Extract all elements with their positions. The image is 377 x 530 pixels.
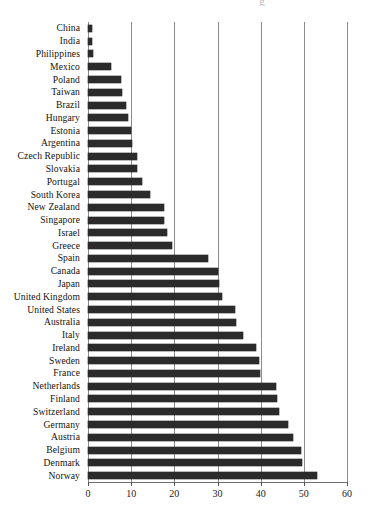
x-tick-mark bbox=[304, 482, 305, 486]
y-axis-label: Spain bbox=[0, 253, 80, 263]
y-axis-label: United Kingdom bbox=[0, 292, 80, 302]
x-axis: 0102030405060 bbox=[88, 482, 347, 512]
bar bbox=[88, 434, 293, 441]
bar bbox=[88, 447, 301, 454]
bar bbox=[88, 383, 276, 390]
y-axis-label: Australia bbox=[0, 317, 80, 327]
y-axis-label: South Korea bbox=[0, 190, 80, 200]
y-axis-label: Portugal bbox=[0, 177, 80, 187]
y-axis-label: Poland bbox=[0, 75, 80, 85]
x-tick-mark bbox=[347, 482, 348, 486]
bar bbox=[88, 421, 288, 428]
bar bbox=[88, 370, 260, 377]
y-axis-label: Austria bbox=[0, 432, 80, 442]
y-axis-label: India bbox=[0, 36, 80, 46]
bar bbox=[88, 268, 218, 275]
y-axis-label: New Zealand bbox=[0, 202, 80, 212]
y-axis-label: Finland bbox=[0, 394, 80, 404]
x-tick-mark bbox=[131, 482, 132, 486]
y-axis-label: Czech Republic bbox=[0, 151, 80, 161]
bar bbox=[88, 408, 279, 415]
bar bbox=[88, 472, 317, 479]
y-axis-label: Ireland bbox=[0, 343, 80, 353]
y-axis-label: Argentina bbox=[0, 138, 80, 148]
y-axis-label: Greece bbox=[0, 241, 80, 251]
bar bbox=[88, 153, 137, 160]
y-axis-label: Singapore bbox=[0, 215, 80, 225]
y-axis-label: Denmark bbox=[0, 458, 80, 468]
bar bbox=[88, 280, 219, 287]
x-tick-mark bbox=[174, 482, 175, 486]
y-axis-label: Hungary bbox=[0, 113, 80, 123]
y-axis-label: Belgium bbox=[0, 445, 80, 455]
bar bbox=[88, 89, 122, 96]
y-axis-label: Canada bbox=[0, 266, 80, 276]
bar-chart: g ChinaIndiaPhilippinesMexicoPolandTaiwa… bbox=[0, 0, 377, 530]
y-axis-label: Slovakia bbox=[0, 164, 80, 174]
y-axis-label: Switzerland bbox=[0, 407, 80, 417]
bar bbox=[88, 102, 126, 109]
y-axis-label: Sweden bbox=[0, 356, 80, 366]
x-tick-label: 30 bbox=[203, 488, 233, 500]
y-axis-label: Germany bbox=[0, 420, 80, 430]
bar bbox=[88, 127, 131, 134]
x-tick-label: 50 bbox=[289, 488, 319, 500]
bar bbox=[88, 76, 121, 83]
bar bbox=[88, 204, 164, 211]
y-axis-label: France bbox=[0, 368, 80, 378]
y-axis-label: Taiwan bbox=[0, 87, 80, 97]
plot-area bbox=[88, 22, 347, 482]
bar bbox=[88, 114, 128, 121]
bar bbox=[88, 178, 142, 185]
bar bbox=[88, 63, 111, 70]
y-axis-label: Italy bbox=[0, 330, 80, 340]
y-axis-label: Brazil bbox=[0, 100, 80, 110]
gridline-60 bbox=[347, 22, 348, 482]
bar bbox=[88, 306, 235, 313]
bar bbox=[88, 293, 222, 300]
bar bbox=[88, 25, 92, 32]
y-axis-label: Norway bbox=[0, 471, 80, 481]
bar bbox=[88, 50, 93, 57]
bar bbox=[88, 344, 256, 351]
y-axis-label: Mexico bbox=[0, 62, 80, 72]
bar bbox=[88, 242, 172, 249]
x-tick-label: 60 bbox=[332, 488, 362, 500]
x-tick-mark bbox=[261, 482, 262, 486]
x-tick-label: 10 bbox=[116, 488, 146, 500]
x-tick-label: 40 bbox=[246, 488, 276, 500]
bar bbox=[88, 459, 302, 466]
x-tick-mark bbox=[218, 482, 219, 486]
y-axis-category-labels: ChinaIndiaPhilippinesMexicoPolandTaiwanB… bbox=[0, 22, 84, 482]
x-tick-mark bbox=[88, 482, 89, 486]
bar bbox=[88, 217, 164, 224]
y-axis-label: Philippines bbox=[0, 49, 80, 59]
bar bbox=[88, 255, 208, 262]
x-tick-label: 0 bbox=[73, 488, 103, 500]
y-axis-label: Estonia bbox=[0, 126, 80, 136]
bar bbox=[88, 165, 137, 172]
bar bbox=[88, 395, 277, 402]
y-axis-label: China bbox=[0, 23, 80, 33]
bar bbox=[88, 140, 132, 147]
bar bbox=[88, 229, 167, 236]
gridline-50 bbox=[304, 22, 305, 482]
x-tick-label: 20 bbox=[159, 488, 189, 500]
bar bbox=[88, 319, 236, 326]
bar bbox=[88, 38, 92, 45]
bar bbox=[88, 357, 259, 364]
title-remnant-text: g bbox=[252, 0, 272, 6]
y-axis-label: Israel bbox=[0, 228, 80, 238]
y-axis-label: United States bbox=[0, 305, 80, 315]
bar bbox=[88, 332, 243, 339]
bar bbox=[88, 191, 150, 198]
y-axis-label: Netherlands bbox=[0, 381, 80, 391]
y-axis-label: Japan bbox=[0, 279, 80, 289]
